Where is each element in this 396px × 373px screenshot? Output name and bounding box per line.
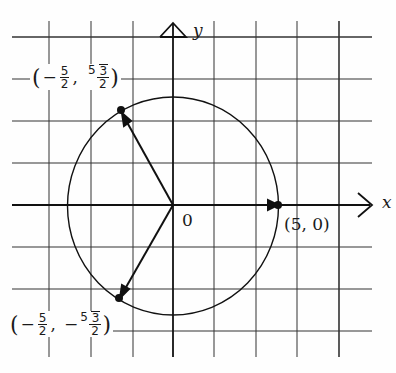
x-denominator: 2 [61,78,69,90]
x-sign: − [21,314,35,334]
open-paren: ( [10,312,19,337]
origin-label: 0 [182,210,193,230]
y-denominator: 2 [91,325,99,337]
y-denominator: 2 [99,78,107,90]
point-label-lower-left: ( − 5 2 , − 5 3 2 ) [8,311,113,337]
vector-to-lower-left [121,205,173,296]
comma: , [72,67,77,87]
x-fraction: 5 2 [60,65,70,90]
y-fraction: 3 2 [89,311,102,337]
x-numerator: 5 [38,312,48,325]
sqrt-icon: 3 [91,311,101,324]
comma: , [50,314,55,334]
vector-to-upper-left [123,115,173,205]
point-label-5-0: (5, 0) [282,214,332,234]
sqrt-icon: 3 [99,64,109,77]
x-fraction: 5 2 [38,312,48,337]
y-coefficient: 5 [80,310,88,324]
x-numerator: 5 [60,65,70,78]
vector-arrowhead-icon [122,113,131,126]
close-paren: ) [110,65,119,90]
y-numerator: 3 [89,311,102,325]
x-sign: − [43,67,57,87]
y-axis-label: y [193,20,203,40]
unit-circle-diagram: y x 0 (5, 0) ( − 5 2 , 5 3 2 ) ( − 5 2 ,… [0,0,396,373]
y-coefficient: 5 [88,63,96,77]
y-numerator: 3 [97,64,110,78]
close-paren: ) [102,312,111,337]
open-paren: ( [32,65,41,90]
y-sign: − [64,314,78,334]
point-label-upper-left: ( − 5 2 , 5 3 2 ) [30,64,121,90]
point-upper-left [117,106,125,114]
point-5-0 [274,201,282,209]
x-axis-label: x [382,192,392,212]
y-fraction: 3 2 [97,64,110,90]
point-lower-left [115,294,123,302]
x-denominator: 2 [39,325,47,337]
